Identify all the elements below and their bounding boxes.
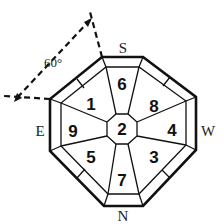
sector-label-bottom: 7 (117, 171, 126, 190)
angle-ray-upper (90, 12, 102, 57)
direction-west: W (201, 123, 216, 139)
band-tick (77, 169, 85, 178)
spoke (137, 101, 186, 122)
spoke (137, 136, 186, 145)
octagon-diagram: 6 8 4 3 7 5 9 1 2 S W N E 60° (0, 0, 224, 224)
sector-label-left: 9 (68, 122, 77, 141)
corner-connector (186, 97, 196, 101)
corner-connector (102, 57, 106, 67)
corner-connector (139, 194, 143, 206)
spoke (128, 144, 139, 194)
sector-label-right: 4 (167, 121, 177, 140)
corner-connector (186, 145, 196, 150)
corner-connector (50, 146, 61, 151)
corner-connector (139, 57, 143, 67)
sector-label-bottom-right: 3 (149, 148, 158, 167)
angle-ray-left (4, 96, 50, 99)
spoke (106, 67, 116, 114)
band-tick (163, 77, 170, 86)
direction-north: N (118, 208, 129, 224)
sector-label-top-left: 1 (86, 95, 95, 114)
direction-south: S (119, 40, 127, 56)
sector-label-top-right: 8 (149, 97, 158, 116)
sector-label-bottom-left: 5 (86, 148, 95, 167)
corner-connector (50, 99, 61, 103)
arrowhead-upper (84, 18, 92, 27)
sector-label-center: 2 (117, 120, 126, 139)
spoke (128, 67, 139, 114)
spoke (108, 144, 116, 194)
direction-east: E (35, 123, 44, 139)
sector-label-top: 6 (117, 75, 126, 94)
diagram-canvas: 6 8 4 3 7 5 9 1 2 S W N E 60° (0, 0, 224, 224)
band-tick (162, 170, 170, 178)
spoke (61, 103, 107, 122)
angle-label: 60° (44, 55, 62, 70)
corner-connector (104, 194, 108, 206)
